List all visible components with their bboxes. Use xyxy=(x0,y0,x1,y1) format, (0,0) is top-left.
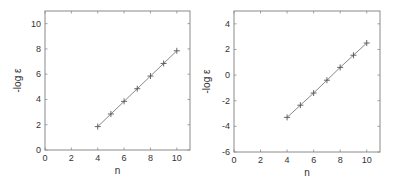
y-tick-label: -4 xyxy=(222,121,230,131)
y-tick-label: 4 xyxy=(225,19,230,29)
x-tick-label: 2 xyxy=(258,155,263,165)
y-axis-label: -log ε xyxy=(201,69,212,93)
y-tick-label: -6 xyxy=(222,147,230,157)
y-tick-label: 4 xyxy=(36,94,41,104)
y-tick-label: 2 xyxy=(36,120,41,130)
x-axis-label: n xyxy=(115,165,121,176)
x-tick-label: 6 xyxy=(311,155,316,165)
axes-frame xyxy=(45,11,190,150)
y-tick-label: 6 xyxy=(36,69,41,79)
y-tick-label: 2 xyxy=(225,44,230,54)
x-axis-label: n xyxy=(304,167,310,178)
y-tick-label: 10 xyxy=(31,19,41,29)
x-tick-label: 6 xyxy=(122,153,127,163)
right-plot: 0246810-6-4-2024n-log ε xyxy=(201,11,380,178)
axes-frame xyxy=(234,11,380,152)
y-tick-label: -2 xyxy=(222,96,230,106)
x-tick-label: 10 xyxy=(362,155,372,165)
x-tick-label: 10 xyxy=(172,153,182,163)
y-tick-label: 0 xyxy=(225,70,230,80)
x-tick-label: 4 xyxy=(285,155,290,165)
figure: 02468100246810n-log ε 0246810-6-4-2024n-… xyxy=(0,0,394,182)
y-tick-label: 8 xyxy=(36,44,41,54)
x-tick-label: 0 xyxy=(231,155,236,165)
x-tick-label: 8 xyxy=(148,153,153,163)
y-tick-label: 0 xyxy=(36,145,41,155)
x-tick-label: 0 xyxy=(42,153,47,163)
x-tick-label: 2 xyxy=(69,153,74,163)
left-plot: 02468100246810n-log ε xyxy=(12,11,190,176)
x-tick-label: 4 xyxy=(95,153,100,163)
y-axis-label: -log ε xyxy=(12,68,23,92)
x-tick-label: 8 xyxy=(338,155,343,165)
